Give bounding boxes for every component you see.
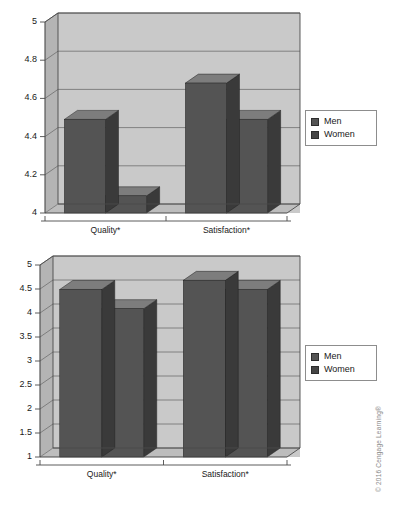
chart-bottom-legend: Men Women — [305, 345, 377, 381]
y-axis-tick-label: 5 — [32, 17, 37, 26]
legend-swatch-men — [311, 353, 319, 361]
legend-swatch-men — [311, 118, 319, 126]
legend-label-men: Men — [324, 352, 342, 361]
legend-item-women: Women — [311, 363, 370, 376]
x-axis-category-label: Satisfaction* — [180, 470, 270, 479]
legend-label-women: Women — [324, 365, 355, 374]
chart-top: Men Women 44.24.44.64.85Quality*Satisfac… — [0, 0, 393, 253]
y-axis-tick-label: 3.5 — [19, 332, 32, 341]
x-axis-category-label: Satisfaction* — [182, 226, 272, 235]
x-axis-category-label: Quality* — [61, 226, 151, 235]
y-axis-tick-label: 1.5 — [19, 428, 32, 437]
y-axis-tick-label: 4.8 — [24, 55, 37, 64]
chart-top-legend: Men Women — [305, 110, 377, 146]
x-axis-category-label: Quality* — [57, 470, 147, 479]
copyright-notice: © 2016 Cengage Learning® — [375, 406, 382, 492]
legend-label-women: Women — [324, 130, 355, 139]
legend-item-women: Women — [311, 128, 370, 141]
legend-swatch-women — [311, 366, 319, 374]
y-axis-tick-label: 4.4 — [24, 132, 37, 141]
y-axis-tick-label: 3 — [27, 356, 32, 365]
y-axis-tick-label: 4.2 — [24, 170, 37, 179]
legend-swatch-women — [311, 131, 319, 139]
y-axis-tick-label: 4.5 — [19, 284, 32, 293]
y-axis-tick-label: 4 — [27, 308, 32, 317]
two-bar-charts-figure: Men Women 44.24.44.64.85Quality*Satisfac… — [0, 0, 393, 506]
y-axis-tick-label: 5 — [27, 260, 32, 269]
legend-item-men: Men — [311, 115, 370, 128]
y-axis-tick-label: 4.6 — [24, 93, 37, 102]
chart-bottom: Men Women 11.522.533.544.55Quality*Satis… — [0, 253, 393, 506]
legend-item-men: Men — [311, 350, 370, 363]
y-axis-tick-label: 4 — [32, 208, 37, 217]
y-axis-tick-label: 2 — [27, 404, 32, 413]
y-axis-tick-label: 1 — [27, 452, 32, 461]
y-axis-tick-label: 2.5 — [19, 380, 32, 389]
legend-label-men: Men — [324, 117, 342, 126]
